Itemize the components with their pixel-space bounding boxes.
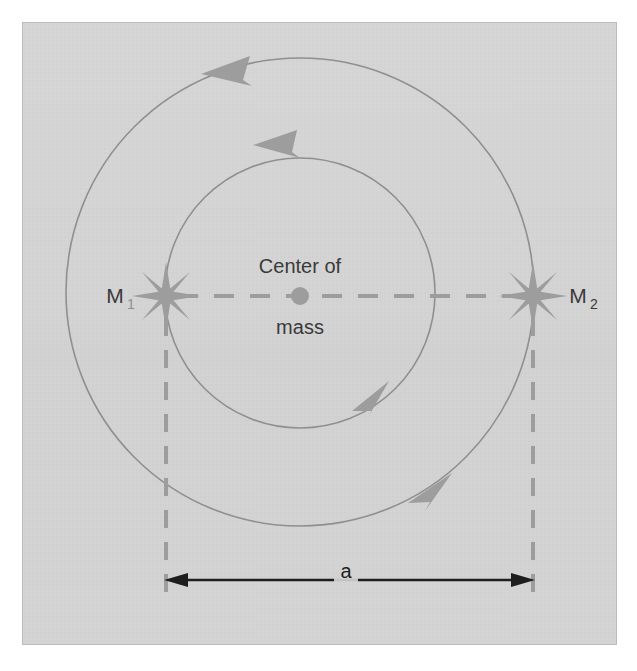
binary-orbit-diagram: Center of mass M 1 M 2 a xyxy=(0,0,637,671)
center-of-mass-dot xyxy=(291,287,309,305)
mass-m2-label-subscript: 2 xyxy=(590,296,598,312)
separation-label-group: a xyxy=(334,560,358,582)
mass-m2-label-base: M xyxy=(569,284,587,307)
mass-m1-label-base: M xyxy=(106,284,124,307)
separation-label: a xyxy=(340,560,352,582)
center-of-mass-label-line2: mass xyxy=(276,316,324,338)
center-of-mass-label-line1: Center of xyxy=(259,255,342,277)
mass-m1-label-subscript: 1 xyxy=(127,296,135,312)
figure-root: Center of mass M 1 M 2 a xyxy=(0,0,637,671)
